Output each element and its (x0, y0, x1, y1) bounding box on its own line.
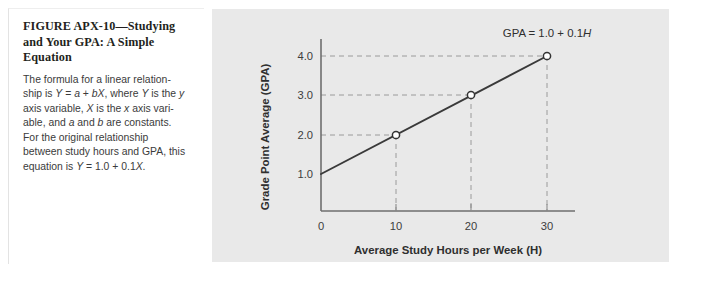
equation-annotation-prefix: GPA = 1.0 + 0.1 (503, 27, 583, 39)
caption-line-4-c: are constants. (103, 117, 171, 128)
caption-line-3-b: is the (93, 103, 124, 114)
x-tick-label-30: 30 (541, 220, 553, 232)
y-tick-label-3: 3.0 (297, 89, 313, 101)
caption-var-x3: X (136, 161, 143, 172)
y-tick-label-1: 1.0 (297, 168, 313, 180)
figure-caption-text: The formula for a linear relation- ship … (23, 73, 189, 175)
data-point-30 (543, 52, 550, 59)
equation-annotation: GPA = 1.0 + 0.1H (503, 27, 592, 39)
caption-line-4-a: able, and (23, 117, 69, 128)
caption-line-7-c: . (143, 161, 146, 172)
caption-line-3-a: axis variable, (23, 103, 87, 114)
caption-line-2-b: = (62, 88, 74, 99)
x-axis-title: Average Study Hours per Week (H) (354, 244, 542, 256)
chart-panel: Grade Point Average (GPA) 4.0 3.0 2.0 1.… (211, 8, 670, 263)
x-tick-label-10: 10 (390, 220, 402, 232)
figure-title: FIGURE APX-10—Studying and Your GPA: A S… (23, 19, 192, 66)
y-tick-label-4: 4.0 (297, 50, 313, 62)
equation-annotation-variable: H (583, 27, 592, 39)
gpa-line-chart: Grade Point Average (GPA) 4.0 3.0 2.0 1.… (212, 9, 670, 263)
data-series-line (321, 56, 547, 174)
caption-line-5: For the original relationship (23, 132, 148, 143)
caption-line-4-b: and (74, 117, 97, 128)
figure-container: FIGURE APX-10—Studying and Your GPA: A S… (0, 0, 703, 286)
y-axis-title: Grade Point Average (GPA) (259, 64, 271, 211)
caption-line-2-c: + (80, 88, 92, 99)
caption-line-2-d: , where (104, 88, 141, 99)
caption-line-1: The formula for a linear relation- (23, 74, 171, 85)
caption-var-bx: bX (92, 88, 105, 99)
y-tick-label-2: 2.0 (297, 129, 313, 141)
figure-title-dash: — (115, 19, 127, 33)
x-tick-label-20: 20 (465, 220, 477, 232)
data-point-10 (392, 131, 399, 138)
caption-line-7-b: = 1.0 + 0.1 (83, 161, 136, 172)
caption-line-2-e: is the (148, 88, 176, 99)
caption-line-2-a: ship is (23, 88, 55, 99)
x-tick-label-0: 0 (318, 220, 324, 232)
caption-var-y-lower: y (179, 88, 184, 99)
figure-number: FIGURE APX-10 (23, 19, 115, 33)
figure-caption-panel: FIGURE APX-10—Studying and Your GPA: A S… (8, 8, 204, 264)
data-point-20 (467, 91, 474, 98)
caption-line-6: between study hours and GPA, (23, 146, 166, 157)
caption-line-3-c: axis vari- (129, 103, 173, 114)
